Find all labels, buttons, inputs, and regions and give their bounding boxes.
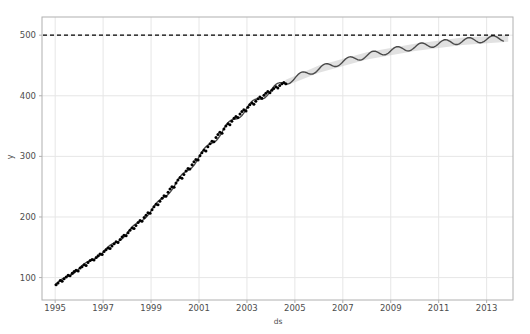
history-point — [215, 136, 218, 139]
history-point — [173, 186, 176, 189]
history-point — [198, 154, 201, 157]
x-tick-label: 1995 — [44, 303, 66, 313]
history-point — [158, 200, 161, 203]
history-point — [174, 182, 177, 185]
chart-figure: 1995199719992001200320052007200920112013… — [0, 0, 530, 334]
history-point — [140, 220, 143, 223]
history-point — [157, 203, 160, 206]
y-tick-label: 300 — [20, 151, 36, 161]
history-point — [260, 97, 263, 100]
history-point — [176, 179, 179, 182]
history-point — [161, 197, 164, 200]
history-point — [212, 140, 215, 143]
history-point — [143, 216, 146, 219]
history-point — [119, 238, 122, 241]
history-point — [252, 103, 255, 106]
history-point — [145, 214, 148, 217]
history-point — [77, 269, 80, 272]
x-tick-label: 2001 — [188, 303, 210, 313]
history-point — [191, 163, 194, 166]
history-point — [222, 128, 225, 131]
history-point — [221, 132, 224, 135]
history-point — [164, 195, 167, 198]
history-point — [167, 191, 170, 194]
x-tick-label: 1999 — [140, 303, 162, 313]
x-tick-label: 2003 — [236, 303, 258, 313]
x-axis-title: ds — [274, 317, 283, 326]
forecast-plot-canvas — [0, 0, 530, 334]
x-tick-label: 1997 — [92, 303, 114, 313]
history-point — [216, 133, 219, 136]
history-point — [188, 168, 191, 171]
history-point — [69, 274, 72, 277]
y-tick-label: 400 — [20, 91, 36, 101]
history-point — [246, 106, 249, 109]
history-point — [254, 100, 257, 103]
history-point — [125, 234, 128, 237]
y-axis-title: y — [6, 155, 15, 160]
history-point — [93, 259, 96, 262]
history-point — [151, 208, 154, 211]
history-point — [224, 125, 227, 128]
history-point — [238, 112, 241, 115]
plot-area-background — [42, 17, 513, 300]
history-point — [185, 169, 188, 172]
history-point — [134, 224, 137, 227]
history-point — [204, 149, 207, 152]
history-point — [57, 282, 60, 285]
history-point — [101, 253, 104, 256]
history-point — [209, 142, 212, 145]
history-point — [276, 86, 279, 89]
x-tick-label: 2009 — [380, 303, 402, 313]
history-point — [228, 123, 231, 126]
history-point — [236, 116, 239, 119]
history-point — [244, 109, 247, 112]
history-point — [85, 264, 88, 267]
history-point — [268, 91, 271, 94]
x-tick-label: 2011 — [428, 303, 450, 313]
history-point — [149, 212, 152, 215]
history-point — [182, 173, 185, 176]
history-point — [152, 205, 155, 208]
history-point — [230, 120, 233, 123]
y-tick-label: 100 — [20, 273, 36, 283]
history-point — [206, 145, 209, 148]
x-tick-label: 2007 — [332, 303, 354, 313]
history-point — [197, 159, 200, 162]
history-point — [61, 280, 64, 283]
history-point — [133, 227, 136, 230]
y-tick-label: 500 — [20, 30, 36, 40]
history-point — [116, 241, 119, 244]
history-point — [127, 231, 130, 234]
y-tick-label: 200 — [20, 212, 36, 222]
history-point — [169, 188, 172, 191]
history-point — [200, 151, 203, 154]
history-point — [109, 247, 112, 250]
history-point — [284, 82, 287, 85]
history-point — [110, 245, 113, 248]
history-point — [128, 229, 131, 232]
x-tick-label: 2013 — [476, 303, 498, 313]
history-point — [180, 177, 183, 180]
history-point — [192, 160, 195, 163]
x-tick-label: 2005 — [284, 303, 306, 313]
